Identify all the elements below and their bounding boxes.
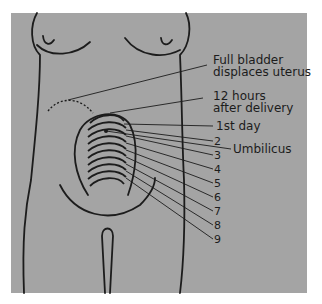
label-12-hours-line2: after delivery (213, 102, 293, 115)
involution-arcs (88, 115, 126, 186)
label-day-6: 6 (214, 192, 221, 203)
full-bladder-dashed-outline (48, 100, 93, 113)
label-umbilicus: Umbilicus (233, 143, 292, 156)
left-breast (37, 42, 90, 54)
label-day-3: 3 (214, 150, 221, 161)
torso-right-outline (180, 13, 189, 293)
label-first-day: 1st day (216, 120, 260, 133)
left-nipple (43, 36, 54, 44)
label-day-9: 9 (214, 234, 221, 245)
label-day-2: 2 (214, 136, 221, 147)
right-nipple (161, 38, 172, 44)
lower-abdomen-curve (60, 178, 155, 215)
leg-gap (102, 229, 113, 294)
label-day-4: 4 (214, 164, 221, 175)
label-day-8: 8 (214, 220, 221, 231)
label-day-7: 7 (214, 206, 221, 217)
torso-left-outline (23, 13, 40, 293)
label-day-5: 5 (214, 178, 221, 189)
label-full-bladder-line2: displaces uterus (213, 66, 311, 79)
uterus-outline (75, 114, 136, 195)
